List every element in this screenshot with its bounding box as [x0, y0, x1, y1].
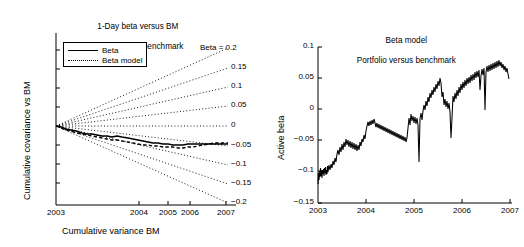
right-ytick--0.05: −0.05 — [280, 134, 314, 143]
fan-label--0.1: −0.1 — [231, 159, 247, 168]
fan-label--0.2: −0.2 — [231, 197, 247, 206]
fan-label-0.1: 0.1 — [231, 81, 242, 90]
fan-label--0.15: −0.15 — [231, 178, 251, 187]
right-plot-area — [262, 0, 516, 247]
legend-swatch-beta-model-dotted — [68, 60, 98, 61]
right-ytick--0.15: −0.15 — [280, 197, 314, 206]
left-panel: 1-Day beta versus BM Active versus bench… — [0, 0, 262, 247]
right-ytick-0.05: 0.05 — [280, 72, 314, 81]
legend-label-beta: Beta — [102, 46, 118, 55]
fan-label-0: 0 — [231, 120, 235, 129]
fan-label-0.15: 0.15 — [231, 62, 247, 71]
right-ytick-0: 0 — [280, 103, 314, 112]
left-xtick-2003: 2003 — [42, 208, 70, 217]
legend-entry-beta-model: Beta model — [68, 56, 142, 65]
right-xtick-2007: 2007 — [496, 206, 524, 215]
fan-label--0.05: −0.05 — [231, 140, 251, 149]
left-xtick-2006: 2006 — [176, 208, 204, 217]
legend-label-beta-model: Beta model — [102, 56, 142, 65]
right-xtick-2004: 2004 — [352, 206, 380, 215]
legend-swatch-beta-solid — [68, 50, 98, 51]
left-xtick-2004: 2004 — [125, 208, 153, 217]
right-ytick--0.1: −0.1 — [280, 165, 314, 174]
right-xtick-2005: 2005 — [400, 206, 428, 215]
right-series-active-beta — [318, 60, 509, 184]
left-fan-lines — [56, 48, 228, 203]
fan-label-0.05: 0.05 — [231, 100, 247, 109]
right-ytick-0.1: 0.1 — [280, 41, 314, 50]
right-xtick-2006: 2006 — [448, 206, 476, 215]
right-panel: Beta model Portfolio versus benchmark Ac… — [262, 0, 516, 247]
left-legend: Beta Beta model — [63, 42, 147, 67]
legend-entry-beta: Beta — [68, 46, 118, 55]
fan-label-0.2: Beta = 0.2 — [200, 43, 237, 52]
left-xtick-2007: 2007 — [212, 208, 240, 217]
right-axes — [318, 47, 512, 203]
right-xtick-2003: 2003 — [304, 206, 332, 215]
